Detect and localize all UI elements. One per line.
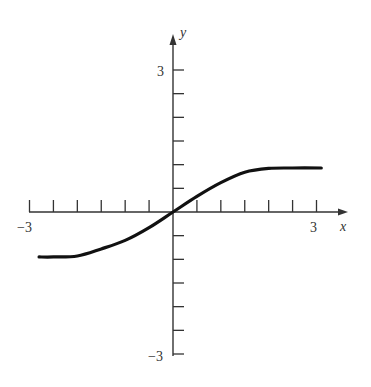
y-axis-arrow-icon — [170, 34, 177, 45]
x-max-label: 3 — [310, 221, 317, 235]
axes — [29, 40, 340, 356]
x-min-label: −3 — [17, 221, 32, 235]
chart-canvas — [0, 0, 371, 387]
y-axis-label: y — [180, 26, 186, 40]
y-min-label: −3 — [148, 350, 163, 364]
x-axis-label: x — [340, 220, 346, 234]
x-axis-arrow-icon — [338, 209, 348, 216]
y-max-label: 3 — [157, 65, 164, 79]
